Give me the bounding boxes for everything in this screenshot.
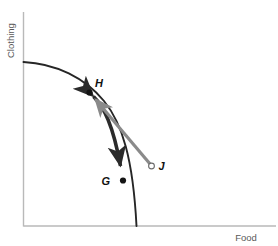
x-axis-label: Food (235, 232, 257, 243)
point-h-marker (86, 89, 92, 95)
point-j-label: J (159, 160, 166, 172)
point-j-marker (149, 163, 155, 169)
point-g-marker (120, 177, 126, 183)
chart-background (0, 0, 278, 246)
point-h-label: H (95, 77, 104, 89)
y-axis-label: Clothing (5, 23, 16, 58)
point-g-label: G (101, 175, 110, 187)
ppf-chart: Clothing Food H G J (0, 0, 278, 246)
